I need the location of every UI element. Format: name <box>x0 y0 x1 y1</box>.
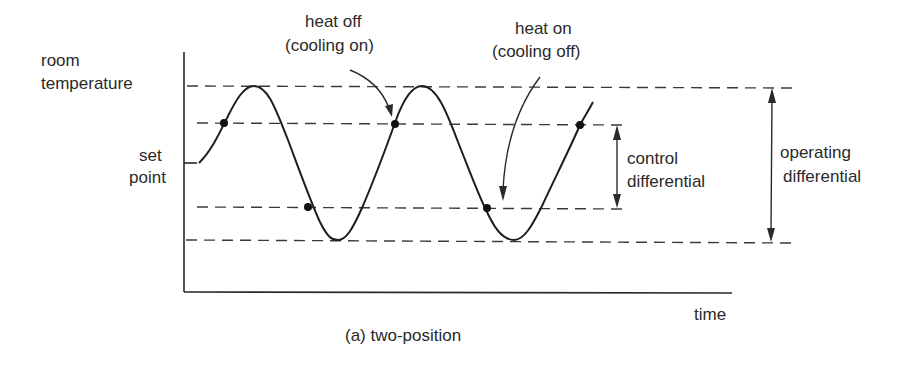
upper-operating-limit-line <box>187 86 796 88</box>
heat-on-point-2 <box>483 204 491 212</box>
operating-arrow-down-icon <box>767 228 775 242</box>
operating-arrow-up-icon <box>768 88 776 103</box>
control-upper-line <box>197 123 626 125</box>
control-arrow-up-icon <box>613 125 621 140</box>
set-point-label-line2: point <box>129 168 166 187</box>
x-axis <box>184 292 732 293</box>
annotation-arrows <box>350 70 540 201</box>
heat-off-label-line1: heat off <box>305 12 362 31</box>
heat-on-point-1 <box>304 203 312 211</box>
control-differential-label-line1: control <box>627 149 678 168</box>
diagram-caption: (a) two-position <box>345 326 461 345</box>
heat-on-arrowhead-icon <box>499 186 507 201</box>
heat-on-pointer-arrow <box>503 77 540 190</box>
two-position-control-diagram: room temperature set point heat off (coo… <box>0 0 920 368</box>
x-axis-label: time <box>694 305 726 324</box>
heat-off-label-line2: (cooling on) <box>285 36 374 55</box>
heat-off-point-2 <box>391 120 399 128</box>
switch-points <box>220 119 584 212</box>
lower-operating-limit-line <box>186 240 795 243</box>
y-axis-label-line1: room <box>41 51 80 70</box>
temperature-curve <box>199 86 593 240</box>
control-lower-line <box>197 207 626 209</box>
heat-off-point-3 <box>576 121 584 129</box>
operating-differential-label-line1: operating <box>780 143 851 162</box>
heat-on-label-line1: heat on <box>515 19 572 38</box>
operating-differential-label-line2: differential <box>783 167 861 186</box>
operating-differential-arrow <box>771 98 772 232</box>
heat-off-arrowhead-icon <box>385 104 393 117</box>
set-point-label-line1: set <box>139 146 162 165</box>
labels: room temperature set point heat off (coo… <box>41 12 861 345</box>
control-arrow-down-icon <box>613 194 621 208</box>
heat-off-pointer-arrow <box>350 70 389 108</box>
control-differential-label-line2: differential <box>627 172 705 191</box>
heat-off-point-1 <box>220 119 228 127</box>
heat-on-label-line2: (cooling off) <box>492 42 581 61</box>
y-axis-label-line2: temperature <box>41 74 133 93</box>
